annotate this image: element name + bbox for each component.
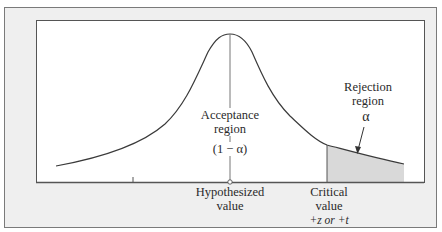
- rejection-label-line1: Rejection: [344, 80, 392, 94]
- acceptance-label-line2: region: [200, 122, 260, 136]
- critical-label-line1: Critical: [309, 185, 348, 199]
- acceptance-probability: (1 − α): [212, 142, 248, 156]
- critical-label-line3: +z or +t: [309, 213, 348, 227]
- alpha-arrow: [358, 127, 364, 150]
- acceptance-label-line1: Acceptance: [200, 108, 260, 122]
- acceptance-region-label: Acceptance region: [200, 108, 260, 136]
- acceptance-probability-label: (1 − α): [212, 142, 248, 156]
- hypothesized-value-marker: [228, 180, 232, 184]
- rejection-region-shading: [327, 145, 404, 182]
- critical-label-line2: value: [309, 199, 348, 213]
- hypothesized-label-line1: Hypothesized: [196, 185, 265, 199]
- rejection-label-line2: region: [344, 94, 392, 108]
- hypothesized-value-label: Hypothesized value: [196, 185, 265, 213]
- rejection-probability: α: [362, 110, 369, 124]
- critical-value-label: Critical value +z or +t: [309, 185, 348, 227]
- rejection-region-label: Rejection region: [344, 80, 392, 108]
- rejection-probability-label: α: [362, 110, 369, 124]
- hypothesized-label-line2: value: [196, 199, 265, 213]
